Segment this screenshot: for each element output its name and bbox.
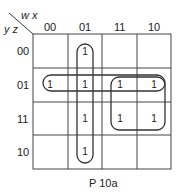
row-var-label: y z — [4, 23, 18, 35]
cell-11-11: 1 — [114, 113, 126, 124]
cell-00-01: 1 — [79, 46, 91, 57]
col-header: 00 — [44, 21, 56, 33]
row-header: 11 — [17, 113, 28, 125]
cell-01-11: 1 — [114, 79, 126, 90]
caption: P 10a — [89, 177, 118, 189]
row-header: 00 — [17, 45, 29, 57]
row-header: 01 — [17, 79, 29, 91]
col-header: 10 — [148, 21, 160, 33]
cell-01-10: 1 — [148, 79, 160, 90]
col-header: 01 — [79, 21, 91, 33]
cell-01-01: 1 — [79, 79, 91, 90]
col-var-label: w x — [21, 9, 38, 21]
col-header: 11 — [114, 21, 125, 33]
cell-10-01: 1 — [79, 146, 91, 157]
cell-11-10: 1 — [148, 113, 160, 124]
row-header: 10 — [17, 146, 29, 158]
cell-11-01: 1 — [79, 113, 91, 124]
cell-01-00: 1 — [44, 79, 56, 90]
